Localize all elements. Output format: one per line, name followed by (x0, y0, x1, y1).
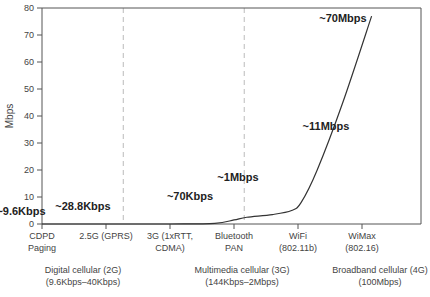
y-tick-label: 10 (24, 192, 34, 202)
chart: 01020304050607080 Mbps CDPDPaging2.5G (G… (0, 0, 430, 297)
category-label: 3G (1xRTT, (147, 231, 193, 241)
category-label: WiMax (348, 231, 376, 241)
group-range-label: (9.6Kbps–40Kbps) (46, 277, 121, 287)
category-label-line2: (802.11b) (279, 243, 317, 253)
y-tick-label: 60 (24, 57, 34, 67)
group-label: Broadband cellular (4G) (332, 265, 428, 275)
rate-annotation: ~11Mbps (303, 120, 350, 132)
annotations: ~9.6Kbps~28.8Kbps~70Kbps~1Mbps~11Mbps~70… (0, 12, 367, 217)
category-label: CDPD (29, 231, 55, 241)
technology-groups: Digital cellular (2G)(9.6Kbps–40Kbps)Mul… (45, 265, 428, 287)
rate-annotation: ~9.6Kbps (0, 205, 46, 217)
group-label: Digital cellular (2G) (45, 265, 122, 275)
y-tick-label: 80 (24, 3, 34, 13)
x-axis-ticks: CDPDPaging2.5G (GPRS)3G (1xRTT,CDMA)Blue… (28, 224, 379, 253)
rate-annotation: ~70Kbps (167, 190, 213, 202)
group-range-label: (144Kbps–2Mbps) (205, 277, 279, 287)
rate-annotation: ~70Mbps (319, 12, 366, 24)
y-tick-label: 50 (24, 84, 34, 94)
y-tick-label: 40 (24, 111, 34, 121)
y-tick-label: 0 (29, 219, 34, 229)
y-tick-label: 70 (24, 30, 34, 40)
category-label-line2: PAN (225, 243, 243, 253)
rate-annotation: ~1Mbps (217, 171, 258, 183)
category-label: WiFi (289, 231, 307, 241)
category-label-line2: CDMA) (155, 243, 185, 253)
rate-annotation: ~28.8Kbps (55, 200, 110, 212)
y-axis-label: Mbps (4, 104, 15, 128)
y-tick-label: 30 (24, 138, 34, 148)
y-axis-ticks: 01020304050607080 (24, 3, 42, 229)
category-label-line2: Paging (28, 243, 56, 253)
category-label: 2.5G (GPRS) (79, 231, 133, 241)
category-label-line2: (802.16) (345, 243, 379, 253)
y-tick-label: 20 (24, 165, 34, 175)
group-label: Multimedia cellular (3G) (194, 265, 289, 275)
group-range-label: (100Mbps) (358, 277, 401, 287)
category-label: Bluetooth (215, 231, 253, 241)
